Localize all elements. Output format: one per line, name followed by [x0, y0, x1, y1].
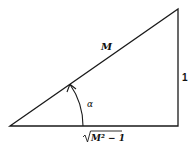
opposite-side-label: 1 — [182, 72, 188, 83]
radicand-text: M² − 1 — [90, 133, 125, 143]
angle-arc — [70, 84, 83, 126]
hypotenuse-label: M — [100, 41, 113, 52]
angle-label: α — [87, 99, 93, 109]
right-triangle — [10, 9, 178, 126]
triangle-diagram: M 1 α M² − 1 — [0, 0, 191, 148]
adjacent-side-label: M² − 1 — [83, 131, 125, 143]
